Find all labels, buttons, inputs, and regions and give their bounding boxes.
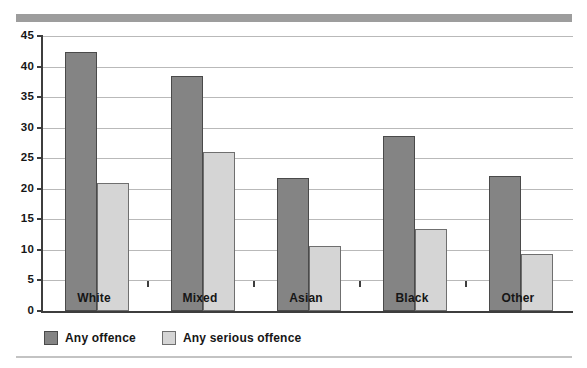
y-tick-label: 30 bbox=[21, 122, 34, 134]
y-tick-label: 5 bbox=[27, 275, 34, 287]
bar-mixed-any-serious-offence bbox=[203, 152, 235, 311]
x-tickmark bbox=[253, 281, 255, 287]
x-tickmark bbox=[359, 281, 361, 287]
x-label-mixed: Mixed bbox=[147, 291, 253, 305]
x-tickmark bbox=[465, 281, 467, 287]
y-tick-label: 10 bbox=[21, 244, 34, 256]
x-axis-category-labels: WhiteMixedAsianBlackOther bbox=[41, 291, 571, 305]
y-tick-label: 0 bbox=[27, 305, 34, 317]
chart-legend: Any offenceAny serious offence bbox=[44, 331, 301, 345]
legend-item-any-offence[interactable]: Any offence bbox=[44, 331, 136, 345]
x-label-asian: Asian bbox=[253, 291, 359, 305]
y-tick-label: 40 bbox=[21, 61, 34, 73]
y-tick-label: 25 bbox=[21, 152, 34, 164]
x-tickmark bbox=[147, 281, 149, 287]
plot-area bbox=[41, 36, 573, 313]
bar-group bbox=[255, 36, 361, 311]
gridline bbox=[43, 311, 573, 312]
legend-swatch-icon bbox=[162, 331, 176, 345]
bar-group bbox=[43, 36, 149, 311]
top-banner-decoration bbox=[16, 14, 572, 22]
legend-label: Any offence bbox=[65, 331, 136, 345]
bar-group bbox=[467, 36, 573, 311]
bar-group bbox=[149, 36, 255, 311]
y-tick-label: 35 bbox=[21, 91, 34, 103]
legend-item-any-serious-offence[interactable]: Any serious offence bbox=[162, 331, 302, 345]
legend-label: Any serious offence bbox=[183, 331, 302, 345]
bar-white-any-offence bbox=[65, 52, 97, 311]
bottom-rule-decoration bbox=[16, 356, 572, 358]
legend-swatch-icon bbox=[44, 331, 58, 345]
bar-mixed-any-offence bbox=[171, 76, 203, 311]
y-tick-label: 20 bbox=[21, 183, 34, 195]
y-tick-label: 45 bbox=[21, 30, 34, 42]
plot-area-wrapper: 454035302520151050 bbox=[0, 30, 587, 320]
x-axis-tickmarks bbox=[41, 281, 571, 287]
y-axis-tick-labels: 454035302520151050 bbox=[0, 30, 40, 320]
bar-chart-figure: 454035302520151050 WhiteMixedAsianBlackO… bbox=[0, 0, 587, 368]
x-label-other: Other bbox=[465, 291, 571, 305]
bar-groups bbox=[43, 36, 573, 311]
x-label-white: White bbox=[41, 291, 147, 305]
x-label-black: Black bbox=[359, 291, 465, 305]
bar-group bbox=[361, 36, 467, 311]
y-tick-label: 15 bbox=[21, 214, 34, 226]
